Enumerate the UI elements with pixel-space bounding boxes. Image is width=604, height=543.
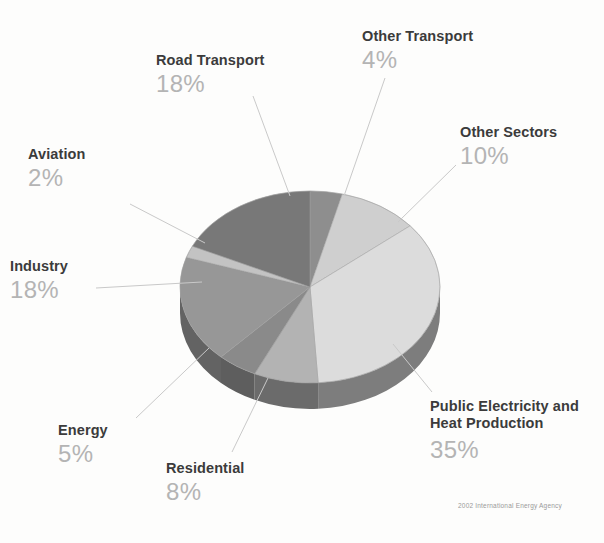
leader-road-transport <box>253 96 290 196</box>
leader-other-sectors <box>398 165 456 222</box>
label-road-transport-percent: 18% <box>156 70 265 97</box>
label-road-transport-name: Road Transport <box>156 52 265 69</box>
label-public-electricity: Public Electricity and Heat Production 3… <box>430 398 579 463</box>
label-energy-name: Energy <box>58 422 108 439</box>
label-other-transport: Other Transport 4% <box>362 28 473 73</box>
label-energy-percent: 5% <box>58 440 108 467</box>
chart-credit: 2002 International Energy Agency <box>458 502 562 509</box>
label-industry: Industry 18% <box>10 258 68 303</box>
label-other-transport-name: Other Transport <box>362 28 473 45</box>
label-other-transport-percent: 4% <box>362 46 473 73</box>
label-residential-percent: 8% <box>166 478 244 505</box>
label-public-electricity-name-line2: Heat Production <box>430 415 579 432</box>
leader-aviation <box>130 204 205 243</box>
label-industry-percent: 18% <box>10 276 68 303</box>
label-other-sectors: Other Sectors 10% <box>460 124 557 169</box>
label-other-sectors-name: Other Sectors <box>460 124 557 141</box>
label-public-electricity-name-line1: Public Electricity and <box>430 398 579 415</box>
label-industry-name: Industry <box>10 258 68 275</box>
label-other-sectors-percent: 10% <box>460 142 557 169</box>
label-residential-name: Residential <box>166 460 244 477</box>
label-public-electricity-percent: 35% <box>430 436 579 463</box>
leader-other-transport <box>344 78 385 196</box>
label-aviation: Aviation 2% <box>28 146 85 191</box>
label-energy: Energy 5% <box>58 422 108 467</box>
pie-chart-figure: Road Transport 18% Other Transport 4% Ot… <box>0 0 604 543</box>
label-aviation-name: Aviation <box>28 146 85 163</box>
leader-energy <box>136 348 209 418</box>
label-residential: Residential 8% <box>166 460 244 505</box>
label-aviation-percent: 2% <box>28 164 85 191</box>
label-road-transport: Road Transport 18% <box>156 52 265 97</box>
